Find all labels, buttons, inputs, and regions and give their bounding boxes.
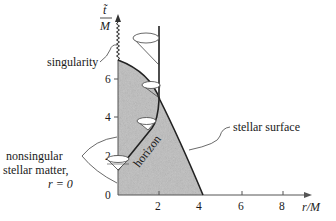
singularity-pointer <box>100 45 117 62</box>
singularity-label: singularity <box>47 55 98 69</box>
collapse-spacetime-diagram: 2 4 6 8 r/M 6 4 2 0 t̃ M horizon <box>0 0 336 221</box>
svg-text:t̃: t̃ <box>103 3 108 17</box>
svg-text:M: M <box>99 19 111 33</box>
y-tick-4: 4 <box>105 111 111 123</box>
matter-label-line3: r = 0 <box>48 177 73 191</box>
light-cone-top <box>133 33 159 65</box>
x-tick-2: 2 <box>155 200 161 212</box>
y-tick-0: 0 <box>105 189 111 201</box>
matter-label-line1: nonsingular <box>6 149 63 163</box>
y-axis-label: t̃ M <box>99 3 112 33</box>
matter-label-line2: stellar matter, <box>3 163 69 177</box>
stellar-interior-region <box>118 60 203 195</box>
x-axis-label: r/M <box>302 200 321 214</box>
x-tick-6: 6 <box>238 200 244 212</box>
singularity-line <box>117 22 120 60</box>
stellar-surface-pointer <box>189 127 230 150</box>
stellar-surface-label: stellar surface <box>233 120 300 134</box>
y-tick-6: 6 <box>105 73 111 85</box>
x-tick-8: 8 <box>279 200 285 212</box>
x-tick-4: 4 <box>196 200 202 212</box>
